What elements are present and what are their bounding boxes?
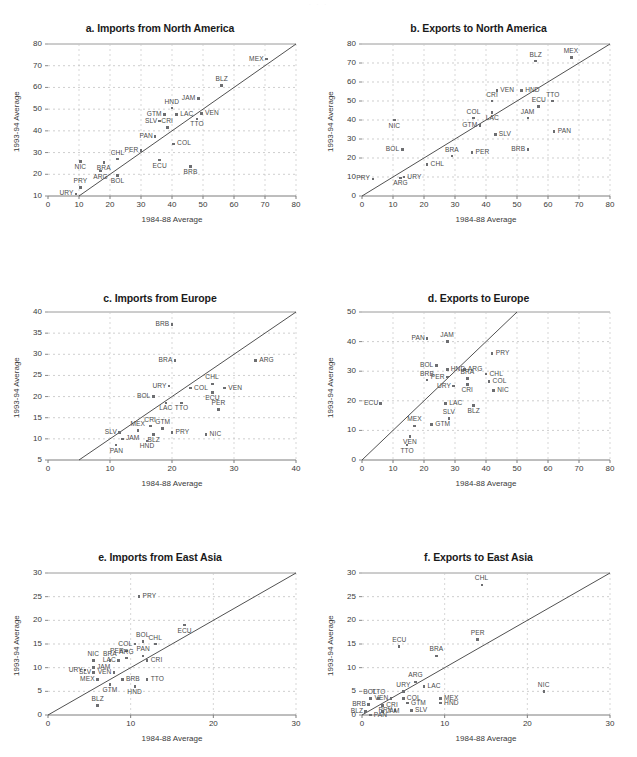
data-point-label: BLZ — [351, 708, 363, 715]
data-point-label: JAM — [386, 708, 400, 715]
data-point-marker — [534, 60, 537, 63]
panel-b-ytick: 40 — [336, 116, 356, 124]
data-point-marker — [172, 143, 175, 146]
panel-d-ytick: 0 — [336, 456, 356, 464]
data-point-marker — [146, 678, 149, 681]
panel-f-ytick: 20 — [336, 616, 356, 624]
panel-d-ytick: 10 — [336, 426, 356, 434]
data-point-marker — [491, 352, 494, 355]
data-point-marker — [372, 178, 375, 181]
panel-a-xtick: 10 — [67, 201, 91, 209]
data-point-label: NIC — [210, 431, 222, 438]
data-point-marker — [117, 659, 120, 662]
data-point-label: BOL — [137, 393, 151, 400]
data-point-marker — [543, 690, 546, 693]
data-point-label: MEX — [564, 48, 579, 55]
data-point-label: BOL — [420, 362, 434, 369]
data-point-label: VEN — [500, 87, 514, 94]
data-point-marker — [161, 427, 164, 430]
data-point-label: TTO — [151, 676, 164, 683]
data-point-marker — [410, 709, 413, 712]
panel-c-ytick: 5 — [22, 456, 42, 464]
data-point-marker — [369, 714, 372, 717]
data-point-marker — [189, 387, 192, 390]
panel-d-xaxis-label: 1984-88 Average — [362, 479, 610, 488]
data-point-label: BRB — [126, 676, 140, 683]
data-point-label: GTM — [103, 687, 118, 694]
panel-c-yaxis-label: 1993-94 Average — [12, 357, 21, 418]
data-point-marker — [527, 117, 530, 120]
data-point-marker — [149, 425, 152, 428]
panel-d-xtick: 30 — [443, 465, 467, 473]
data-point-label: NIC — [87, 651, 99, 658]
data-point-label: BRB — [511, 146, 525, 153]
data-point-marker — [479, 124, 482, 127]
data-point-marker — [471, 151, 474, 154]
panel-a-ytick: 80 — [22, 40, 42, 48]
data-point-marker — [121, 438, 124, 441]
data-point-marker — [142, 655, 145, 658]
data-point-marker — [174, 359, 177, 362]
data-point-label: BRA — [445, 147, 459, 154]
data-point-marker — [494, 133, 497, 136]
data-point-label: PAN — [137, 646, 150, 653]
panel-b-xtick: 30 — [443, 201, 467, 209]
data-point-marker — [142, 640, 145, 643]
data-point-label: PRY — [74, 178, 88, 185]
data-point-label: SLV — [105, 429, 117, 436]
data-point-label: NIC — [538, 682, 550, 689]
data-point-label: JAM — [126, 435, 140, 442]
panel-a-ytick: 30 — [22, 149, 42, 157]
panel-b-xtick: 50 — [505, 201, 529, 209]
data-point-marker — [413, 425, 416, 428]
data-point-label: PAN — [110, 448, 123, 455]
data-point-label: COL — [194, 385, 208, 392]
data-point-label: URY — [407, 174, 421, 181]
panel-e-xtick: 10 — [119, 720, 143, 728]
data-point-marker — [435, 364, 438, 367]
data-point-marker — [406, 702, 409, 705]
panel-c-xtick: 30 — [222, 465, 246, 473]
data-point-marker — [435, 655, 438, 658]
data-point-label: VEN — [228, 385, 242, 392]
data-point-label: JAM — [182, 95, 196, 102]
panel-d-ytick: 40 — [336, 338, 356, 346]
data-point-marker — [137, 429, 140, 432]
panel-f-exports-east-asia: f. Exports to East Asia 0510152025300102… — [320, 533, 637, 757]
data-point-label: GTM — [155, 419, 170, 426]
panel-a-ytick: 70 — [22, 62, 42, 70]
data-point-marker — [402, 690, 405, 693]
panel-e-ytick: 25 — [22, 593, 42, 601]
data-point-marker — [118, 431, 121, 434]
panel-f-xtick: 20 — [515, 720, 539, 728]
panel-c-axes — [48, 312, 296, 460]
data-point-marker — [183, 624, 186, 627]
panel-c-ytick: 10 — [22, 435, 42, 443]
data-point-marker — [113, 671, 116, 674]
data-point-label: LAC — [180, 111, 193, 118]
data-point-label: BLZ — [468, 408, 480, 415]
data-point-label: LAC — [428, 683, 441, 690]
data-point-label: COL — [467, 109, 481, 116]
data-point-marker — [154, 643, 157, 646]
data-point-label: SLV — [499, 131, 511, 138]
panel-f-ytick: 25 — [336, 593, 356, 601]
panel-c-imports-europe: c. Imports from Europe 51015202530354001… — [0, 268, 320, 533]
data-point-marker — [520, 89, 523, 92]
data-point-marker — [109, 659, 112, 662]
panel-a-ytick: 50 — [22, 105, 42, 113]
data-point-marker — [197, 97, 200, 100]
data-point-marker — [92, 671, 95, 674]
data-point-label: JAM — [440, 332, 454, 339]
panel-e-xtick: 20 — [201, 720, 225, 728]
panel-c-title: c. Imports from Europe — [0, 292, 320, 304]
data-point-label: PAN — [374, 712, 387, 719]
panel-b-xtick: 40 — [474, 201, 498, 209]
data-point-marker — [403, 176, 406, 179]
panel-b-plot: 01020304050607080010203040506070801984-8… — [362, 44, 610, 196]
data-point-label: BOL — [386, 146, 400, 153]
panel-f-xtick: 0 — [350, 720, 374, 728]
data-point-label: GTM — [435, 421, 450, 428]
panel-c-ytick: 20 — [22, 393, 42, 401]
panel-f-yaxis-label: 1993-94 Average — [326, 615, 335, 676]
